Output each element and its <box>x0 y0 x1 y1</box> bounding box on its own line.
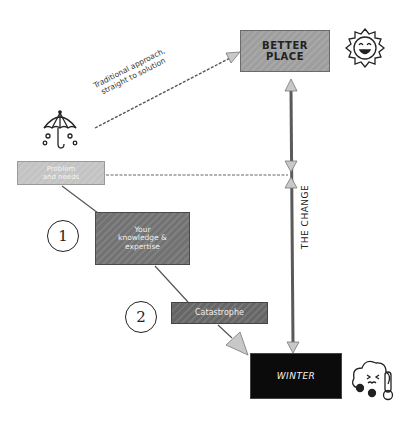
knowledge-label-line3: expertise <box>118 243 167 252</box>
problem-and-needs-box: Problem and needs <box>17 161 105 185</box>
umbrella-rain-icon <box>43 111 77 148</box>
step-2-number: 2 <box>136 308 146 326</box>
better-place-label-line1: BETTER <box>262 40 308 52</box>
problem-label-line2: and needs <box>43 173 80 181</box>
winter-label: WINTER <box>277 371 316 381</box>
connector-knowledge-catastrophe <box>155 266 188 302</box>
smiling-sun-icon <box>346 29 384 67</box>
winter-box: WINTER <box>250 353 342 399</box>
problem-label-line1: Problem <box>43 165 80 173</box>
diagram-canvas <box>0 0 412 425</box>
cold-cloud-thermometer-icon <box>353 361 393 399</box>
catastrophe-box: Catastrophe <box>171 302 268 324</box>
knowledge-expertise-box: Your knowledge & expertise <box>95 212 190 265</box>
better-place-label-line2: PLACE <box>262 51 308 63</box>
better-place-box: BETTER PLACE <box>240 30 330 72</box>
step-1-badge: 1 <box>47 220 79 252</box>
the-change-arrow <box>285 79 299 353</box>
catastrophe-label: Catastrophe <box>195 308 244 317</box>
connector-problem-knowledge <box>62 186 98 213</box>
the-change-label: THE CHANGE <box>300 177 310 257</box>
connector-catastrophe-winter <box>218 325 248 355</box>
step-2-badge: 2 <box>125 301 157 333</box>
step-1-number: 1 <box>58 227 68 245</box>
